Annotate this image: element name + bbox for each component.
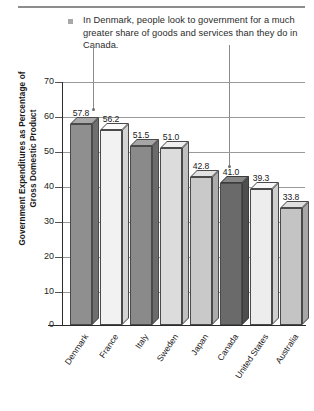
x-axis-line <box>48 325 306 326</box>
bar-side-denmark <box>92 117 99 325</box>
bar-value-australia: 33.8 <box>271 192 311 202</box>
gridline-70 <box>62 82 305 83</box>
y-tick-mark-50 <box>55 152 62 153</box>
bar-sweden[interactable] <box>160 148 182 325</box>
bar-front-italy <box>130 146 152 325</box>
y-tick-mark-30 <box>55 222 62 223</box>
bar-canada[interactable] <box>220 183 242 325</box>
plot-area: 57.8 56.2 51.5 51.0 42.8 <box>62 82 305 325</box>
y-tick-mark-10 <box>55 292 62 293</box>
bar-side-australia <box>302 201 309 325</box>
bar-front-france <box>100 130 122 325</box>
bar-value-france: 56.2 <box>91 114 131 124</box>
y-tick-60: 60 <box>12 111 54 123</box>
y-axis-title: Government Expenditures as Percentage of… <box>18 59 39 259</box>
bar-side-japan <box>212 170 219 325</box>
square-bullet-icon <box>68 19 73 24</box>
bar-australia[interactable] <box>280 208 302 325</box>
chart-figure: In Denmark, people look to government fo… <box>0 0 314 411</box>
y-tick-mark-20 <box>55 257 62 258</box>
bar-front-denmark <box>70 124 92 325</box>
annotation-text: In Denmark, people look to government fo… <box>83 14 301 52</box>
bar-front-sweden <box>160 148 182 325</box>
y-tick-70: 70 <box>12 76 54 88</box>
y-tick-40: 40 <box>12 181 54 193</box>
bar-france[interactable] <box>100 130 122 325</box>
bar-denmark[interactable] <box>70 124 92 325</box>
bar-front-united-states <box>250 189 272 325</box>
bar-front-australia <box>280 208 302 325</box>
y-tick-20: 20 <box>12 251 54 263</box>
header-divider <box>18 6 305 8</box>
bar-side-canada <box>242 176 249 325</box>
y-tick-mark-40 <box>55 187 62 188</box>
bar-side-italy <box>152 139 159 325</box>
bar-value-sweden: 51.0 <box>151 132 191 142</box>
bar-side-france <box>122 123 129 325</box>
bar-italy[interactable] <box>130 146 152 325</box>
y-tick-10: 10 <box>12 286 54 298</box>
bar-united-states[interactable] <box>250 189 272 325</box>
y-tick-30: 30 <box>12 216 54 228</box>
bar-value-united-states: 39.3 <box>241 173 281 183</box>
y-tick-mark-70 <box>55 82 62 83</box>
bar-front-canada <box>220 183 242 325</box>
bar-front-japan <box>190 177 212 325</box>
bar-side-united-states <box>272 182 279 325</box>
bar-japan[interactable] <box>190 177 212 325</box>
y-tick-50: 50 <box>12 146 54 158</box>
y-axis-line <box>62 82 63 326</box>
